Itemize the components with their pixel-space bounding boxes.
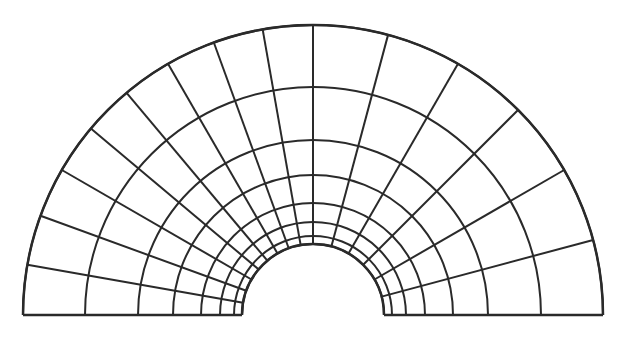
mesh-spoke xyxy=(40,216,246,291)
mesh-spoke xyxy=(382,240,594,297)
mesh-spokes xyxy=(27,25,593,303)
mesh-spoke xyxy=(331,35,388,247)
polar-mesh-diagram xyxy=(0,0,631,337)
mesh-spoke xyxy=(214,42,289,248)
diagram-canvas xyxy=(0,0,631,337)
